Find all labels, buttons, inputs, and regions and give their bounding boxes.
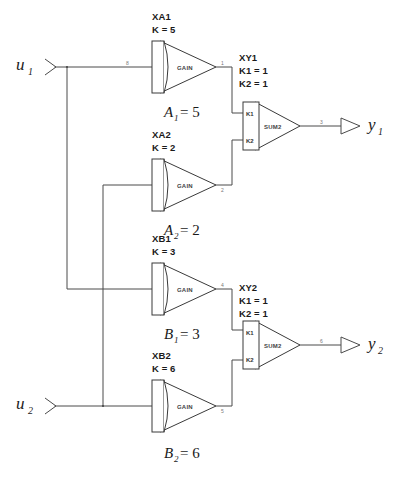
xy1-port-k1-label: K1	[246, 111, 254, 117]
xb2-inner-label: GAIN	[177, 404, 193, 410]
xy1-param2: K2 = 1	[239, 78, 268, 89]
xy2-param1: K1 = 1	[239, 295, 268, 306]
y1-subscript: 1	[378, 126, 383, 137]
xb2-caption-symbol: B	[164, 445, 173, 461]
xb2-block-name: XB2	[152, 350, 171, 361]
wire-u2-branch-to-xa2	[103, 185, 152, 406]
xb2-param: K = 6	[152, 363, 175, 374]
xb2-out-signal-number: 5	[221, 408, 224, 414]
xb1-param: K = 3	[152, 246, 175, 257]
xb1-caption-equation: = 3	[180, 326, 200, 342]
xa1-caption-subscript: 1	[174, 113, 179, 123]
xb1-inner-label: GAIN	[177, 287, 193, 293]
xb1-caption-symbol: B	[164, 326, 173, 342]
block-diagram-canvas: GAIN XA1 K = 5 8 1 A 1 = 5 GAIN XA2 K = …	[0, 0, 396, 480]
xy2-param2: K2 = 1	[239, 308, 268, 319]
u2-symbol: u	[16, 394, 25, 413]
io-label-u1: u 1	[16, 55, 33, 77]
gain-block-xb2[interactable]: GAIN XB2 K = 6 5 B 2 = 6	[152, 350, 224, 464]
xy1-param1: K1 = 1	[239, 65, 268, 76]
xa1-input-bar	[152, 41, 164, 93]
xa1-inner-label: GAIN	[177, 65, 193, 71]
xb2-caption-subscript: 2	[174, 454, 179, 464]
xb1-input-bar	[152, 263, 164, 315]
xa2-caption-equation: = 2	[180, 222, 200, 238]
xb1-block-name: XB1	[152, 233, 171, 244]
sum-block-xy2[interactable]: K1 K2 SUM2 XY2 K1 = 1 K2 = 1 6	[239, 282, 323, 369]
gain-block-xb1[interactable]: GAIN XB1 K = 3 4 B 1 = 3	[152, 233, 224, 345]
u1-symbol: u	[16, 55, 25, 74]
y2-subscript: 2	[378, 345, 383, 356]
y1-symbol: y	[366, 115, 376, 134]
xa1-param: K = 5	[152, 24, 176, 35]
xb2-caption-equation: = 6	[180, 445, 200, 461]
junction-u1	[66, 66, 68, 68]
xa1-caption-symbol: A	[163, 104, 174, 120]
io-label-y1: y 1	[366, 115, 383, 137]
output-marker-y1	[341, 118, 360, 134]
io-label-y2: y 2	[366, 334, 383, 356]
xy2-block-name: XY2	[239, 282, 257, 293]
xa2-input-bar	[152, 159, 164, 211]
xy2-out-signal-number: 6	[320, 338, 323, 344]
xa1-block-name: XA1	[152, 11, 171, 22]
gain-block-xa2[interactable]: GAIN XA2 K = 2 2 A 2 = 2	[152, 129, 224, 241]
y2-symbol: y	[366, 334, 376, 353]
xy1-out-signal-number: 3	[320, 119, 323, 125]
input-marker-u1	[45, 59, 56, 75]
xb1-caption-subscript: 1	[174, 335, 179, 345]
u2-subscript: 2	[28, 405, 33, 416]
xa2-param: K = 2	[152, 142, 175, 153]
junction-group	[66, 66, 104, 407]
xa1-caption-equation: = 5	[180, 104, 200, 120]
xy1-inner-label: SUM2	[264, 124, 282, 130]
xa2-inner-label: GAIN	[177, 183, 193, 189]
io-label-u2: u 2	[16, 394, 33, 416]
xy2-port-k1-label: K1	[246, 330, 254, 336]
wire-u1-branch-to-xb1	[67, 67, 152, 289]
xb1-out-signal-number: 4	[221, 282, 224, 288]
xy2-port-k2-label: K2	[246, 357, 254, 363]
xa2-out-signal-number: 2	[221, 187, 224, 193]
xb2-input-bar	[152, 380, 164, 432]
xa1-out-signal-number: 1	[221, 60, 224, 66]
junction-u2	[102, 405, 104, 407]
block-diagram-svg: GAIN XA1 K = 5 8 1 A 1 = 5 GAIN XA2 K = …	[0, 0, 396, 480]
wire-xa2-to-xy1-k2	[216, 140, 243, 185]
xy2-inner-label: SUM2	[264, 343, 282, 349]
xa2-block-name: XA2	[152, 129, 171, 140]
output-marker-y2	[341, 337, 360, 353]
xa1-in-signal-number: 8	[126, 60, 129, 66]
xy1-port-k2-label: K2	[246, 138, 254, 144]
xy1-block-name: XY1	[239, 52, 258, 63]
wire-xb2-to-xy2-k2	[216, 360, 243, 406]
u1-subscript: 1	[28, 66, 33, 77]
xa2-caption-subscript: 2	[174, 231, 179, 241]
sum-block-xy1[interactable]: K1 K2 SUM2 XY1 K1 = 1 K2 = 1 3	[239, 52, 323, 150]
input-marker-u2	[45, 398, 56, 414]
